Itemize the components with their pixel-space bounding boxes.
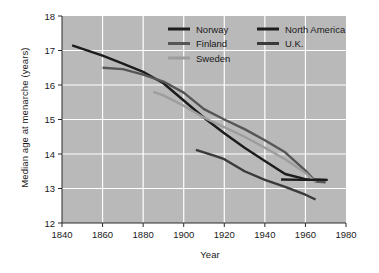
x-axis-tick-label: 1880	[133, 229, 154, 240]
y-axis-tick-label: 13	[44, 183, 55, 194]
y-axis-tick-label: 12	[44, 218, 55, 229]
x-axis-tick-label: 1940	[254, 229, 275, 240]
legend-label: U.K.	[285, 38, 303, 49]
plot-area: 1213141516171818401860188019001920194019…	[44, 11, 356, 241]
legend-label: Sweden	[196, 53, 230, 64]
y-axis-tick-label: 15	[44, 114, 55, 125]
x-axis-tick-label: 1960	[295, 229, 316, 240]
legend-label: North America	[285, 24, 346, 35]
y-axis-tick-label: 17	[44, 45, 55, 56]
y-axis-title: Median age at menarche (years)	[19, 18, 30, 218]
x-axis-tick-label: 1980	[335, 229, 356, 240]
y-axis-tick-label: 14	[44, 149, 55, 160]
x-axis-tick-label: 1860	[92, 229, 113, 240]
x-axis-tick-label: 1920	[214, 229, 235, 240]
y-axis-tick-label: 16	[44, 80, 55, 91]
x-axis-tick-label: 1900	[173, 229, 194, 240]
x-axis-tick-label: 1840	[51, 229, 72, 240]
legend-label: Finland	[196, 38, 227, 49]
legend-label: Norway	[196, 24, 228, 35]
chart-figure: 1213141516171818401860188019001920194019…	[0, 0, 379, 273]
y-axis-tick-label: 18	[44, 11, 55, 22]
line-chart: 1213141516171818401860188019001920194019…	[0, 0, 379, 273]
x-axis-title: Year	[60, 249, 360, 260]
